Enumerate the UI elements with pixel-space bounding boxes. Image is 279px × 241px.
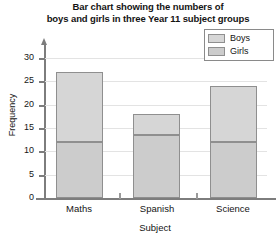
y-tick-0 [39, 198, 45, 200]
x-tick-2 [196, 193, 198, 199]
x-category-label-spanish: Spanish [117, 203, 197, 214]
girls-swatch-icon [208, 47, 225, 56]
x-category-label-maths: Maths [39, 203, 119, 214]
legend-item-boys: Boys [208, 32, 270, 45]
y-tick-20 [39, 105, 45, 107]
chart-title: Bar chart showing the numbers of boys an… [28, 1, 268, 24]
bar-segment-science-girls [210, 142, 257, 198]
bar-segment-spanish-boys [133, 114, 180, 135]
bar-segment-spanish-girls [133, 135, 180, 198]
y-tick-label-30: 30 [0, 53, 34, 62]
chart-title-line-2: boys and girls in three Year 11 subject … [28, 13, 268, 25]
y-axis-title: Frequency [7, 75, 17, 155]
chart-title-line-1: Bar chart showing the numbers of [28, 1, 268, 13]
x-tick-1 [119, 193, 121, 199]
bar-segment-maths-girls [56, 142, 103, 198]
y-tick-label-25: 25 [0, 76, 34, 85]
chart-legend: Boys Girls [204, 29, 274, 61]
legend-item-girls: Girls [208, 45, 270, 58]
y-tick-30 [39, 58, 45, 60]
x-axis-line [36, 198, 276, 200]
bar-segment-maths-boys [56, 72, 103, 142]
y-tick-label-5: 5 [0, 170, 34, 179]
bar-chart: Bar chart showing the numbers of boys an… [0, 0, 279, 241]
y-tick-label-15: 15 [0, 123, 34, 132]
legend-label-boys: Boys [230, 34, 250, 43]
y-tick-label-0: 0 [0, 193, 34, 202]
x-category-label-science: Science [193, 203, 273, 214]
bar-segment-science-boys [210, 86, 257, 142]
legend-label-girls: Girls [230, 47, 249, 56]
x-axis-title: Subject [44, 222, 266, 233]
y-tick-label-20: 20 [0, 100, 34, 109]
y-tick-5 [39, 175, 45, 177]
y-axis-line [44, 44, 46, 200]
y-tick-label-10: 10 [0, 146, 34, 155]
y-tick-15 [39, 128, 45, 130]
y-tick-25 [39, 81, 45, 83]
y-tick-10 [39, 151, 45, 153]
boys-swatch-icon [208, 34, 225, 43]
